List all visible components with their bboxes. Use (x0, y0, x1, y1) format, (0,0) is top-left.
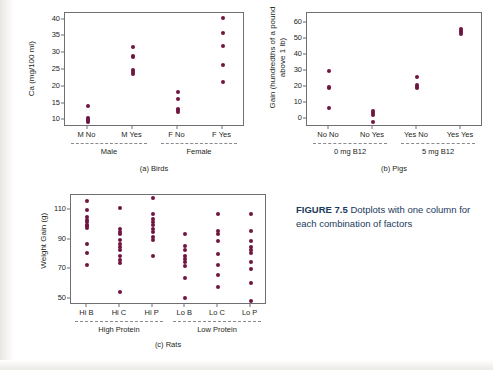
y-tick-label: 50 (44, 294, 66, 302)
data-point (183, 276, 187, 280)
data-point (86, 120, 90, 124)
data-point (249, 239, 253, 243)
y-tick-label: 40 (38, 15, 60, 23)
data-point (118, 290, 122, 294)
data-point (131, 55, 135, 59)
data-point (459, 32, 463, 36)
data-point (371, 120, 375, 124)
data-point (85, 226, 89, 230)
group-bracket (75, 321, 163, 322)
x-tick-mark (86, 304, 87, 307)
data-point (85, 208, 89, 212)
figure-number: FIGURE 7.5 (296, 204, 348, 215)
x-tick-mark (131, 126, 132, 129)
y-tick-label: 70 (44, 264, 66, 272)
x-tick-mark (217, 304, 218, 307)
data-point (216, 232, 220, 236)
x-tick-label: Lo C (209, 308, 225, 317)
group-label: Male (101, 147, 117, 156)
data-point (216, 285, 220, 289)
chart-panel-pigs: Gain (hundredths of a pound above 1 lb) … (258, 8, 488, 180)
data-point (371, 113, 375, 117)
x-tick-label: F No (168, 130, 184, 139)
x-tick-label: No Yes (360, 130, 384, 139)
y-tick-mark (67, 298, 70, 299)
y-tick-label: 10 (280, 98, 302, 106)
data-point (183, 232, 187, 236)
y-tick-mark (61, 85, 64, 86)
data-point (249, 281, 253, 285)
x-tick-label: Lo P (242, 308, 257, 317)
y-tick-label: 90 (44, 235, 66, 243)
y-axis-label-birds: Ca (mg/100 ml) (27, 31, 37, 107)
data-point (249, 212, 253, 216)
x-tick-mark (249, 304, 250, 307)
data-point (131, 45, 135, 49)
figure-caption: FIGURE 7.5 Dotplots with one column for … (296, 203, 486, 231)
y-tick-mark (67, 208, 70, 209)
data-point (118, 232, 122, 236)
data-point (327, 69, 331, 73)
y-tick-label: 60 (280, 18, 302, 26)
data-point (176, 97, 180, 101)
y-tick-mark (303, 53, 306, 54)
y-tick-mark (61, 119, 64, 120)
x-tick-label: Hi P (145, 308, 159, 317)
data-point (183, 296, 187, 300)
chart-panel-rats: Weight Gain (g) 507090110Hi BHi CHi PLo … (32, 190, 280, 358)
data-point (151, 196, 155, 200)
data-point (118, 238, 122, 242)
y-tick-label: 10 (38, 115, 60, 123)
y-tick-mark (303, 117, 306, 118)
data-point (221, 63, 225, 67)
y-tick-mark (61, 102, 64, 103)
data-point (249, 229, 253, 233)
x-tick-label: Yes No (404, 130, 428, 139)
dot-layer-rats (71, 195, 265, 303)
data-point (221, 31, 225, 35)
data-point (249, 251, 253, 255)
group-bracket (71, 143, 147, 144)
y-tick-mark (61, 52, 64, 53)
y-tick-mark (61, 18, 64, 19)
data-point (249, 260, 253, 264)
x-tick-mark (221, 126, 222, 129)
y-tick-label: 35 (38, 31, 60, 39)
data-point (151, 230, 155, 234)
subfigure-caption-birds: (a) Birds (140, 164, 168, 173)
y-tick-mark (61, 35, 64, 36)
data-point (176, 90, 180, 94)
y-tick-label: 15 (38, 99, 60, 107)
y-tick-mark (303, 37, 306, 38)
y-tick-label: 0 (280, 114, 302, 122)
y-tick-label: 30 (38, 48, 60, 56)
data-point (216, 212, 220, 216)
y-tick-label: 110 (44, 205, 66, 213)
plot-frame-birds (64, 12, 244, 126)
group-label: 5 mg B12 (422, 147, 454, 156)
data-point (131, 72, 135, 76)
y-tick-mark (303, 85, 306, 86)
group-bracket (161, 143, 237, 144)
x-tick-mark (86, 126, 87, 129)
data-point (118, 248, 122, 252)
data-point (151, 238, 155, 242)
y-tick-mark (303, 21, 306, 22)
data-point (216, 263, 220, 267)
plot-frame-rats (70, 194, 266, 304)
data-point (415, 75, 419, 79)
data-point (183, 248, 187, 252)
page-edge-shading-bottom (0, 360, 493, 370)
data-point (151, 254, 155, 258)
data-point (221, 16, 225, 20)
data-point (85, 199, 89, 203)
group-label: 0 mg B12 (334, 147, 366, 156)
x-tick-mark (460, 126, 461, 129)
data-point (85, 263, 89, 267)
data-point (118, 261, 122, 265)
data-point (183, 244, 187, 248)
data-point (151, 223, 155, 227)
data-point (216, 239, 220, 243)
x-tick-label: F Yes (212, 130, 231, 139)
x-tick-mark (184, 304, 185, 307)
